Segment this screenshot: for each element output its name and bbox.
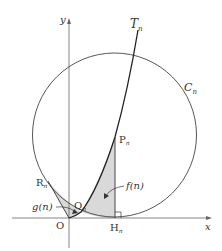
point-q-label: Qn [74,200,86,212]
y-axis-arrow-icon [67,18,71,24]
region-g-label: g(n) [32,201,53,212]
x-axis-arrow-icon [206,216,212,220]
y-axis-label: y [59,14,66,25]
diagram-canvas: y x O Tn Cn Pn Qn Rn Hn f(n) g(n) [0,0,222,251]
point-p-label: Pn [119,134,130,146]
curve-label: Tn [130,17,143,33]
circle-label: Cn [184,81,197,96]
origin-label: O [56,220,64,231]
segment-r-o [48,181,69,218]
region-f-label: f(n) [125,180,144,191]
x-axis-label: x [205,221,211,232]
point-r-label: Rn [36,177,48,189]
point-h-label: Hn [110,222,123,234]
